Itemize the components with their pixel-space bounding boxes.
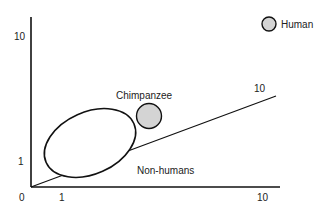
- chimpanzee-label: Chimpanzee: [116, 90, 173, 101]
- x-tick-10: 10: [257, 192, 269, 203]
- chimpanzee-marker: [137, 104, 162, 129]
- y-tick-10: 10: [14, 31, 26, 42]
- diagonal-tick-10: 10: [254, 83, 266, 94]
- species-diagram: 10 1 0 1 10 10 Chimpanzee Non-humans Hum…: [0, 0, 330, 213]
- x-tick-1: 1: [59, 192, 65, 203]
- y-tick-1: 1: [18, 156, 24, 167]
- human-marker: [262, 17, 276, 31]
- non-humans-label: Non-humans: [137, 165, 194, 176]
- human-label: Human: [281, 19, 313, 30]
- non-humans-ellipse: [34, 95, 147, 191]
- origin-tick: 0: [19, 192, 25, 203]
